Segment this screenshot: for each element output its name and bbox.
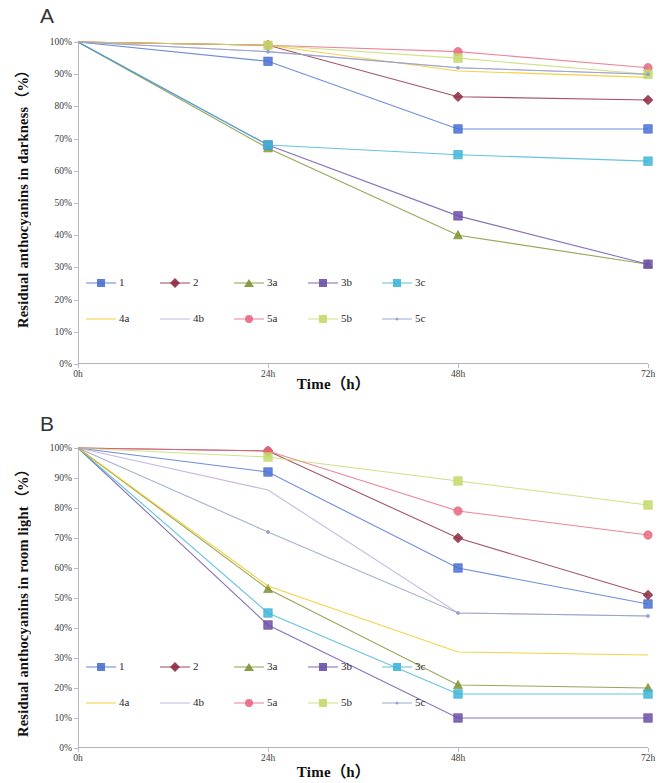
data-point — [646, 614, 649, 617]
panel-a-x-axis-title: Time（h） — [0, 372, 667, 393]
legend-swatch-3b-icon — [308, 277, 338, 289]
x-tick — [268, 748, 269, 752]
panel-a: A Residual anthocyanins in darkness（%） 0… — [0, 0, 667, 400]
series-2 — [78, 40, 653, 104]
legend-item-4b[interactable]: 4b — [160, 697, 234, 709]
y-tick — [74, 74, 78, 75]
legend-item-4a[interactable]: 4a — [86, 313, 160, 325]
y-tick — [74, 508, 78, 509]
legend-item-2[interactable]: 2 — [160, 277, 234, 289]
y-tick — [74, 478, 78, 479]
y-tick — [74, 332, 78, 333]
legend-item-3a[interactable]: 3a — [234, 661, 308, 673]
data-point — [454, 231, 463, 239]
series-5a — [78, 447, 652, 539]
series-4b — [78, 448, 648, 616]
legend-item-4b[interactable]: 4b — [160, 313, 234, 325]
panel-a-letter: A — [40, 4, 54, 28]
data-point — [644, 531, 652, 539]
data-point — [454, 507, 462, 515]
data-point — [453, 533, 463, 543]
legend-swatch-4a-icon — [86, 697, 116, 709]
legend-swatch-5b-icon — [308, 697, 338, 709]
y-tick-label: 60% — [55, 166, 72, 176]
y-tick-label: 0% — [59, 743, 72, 753]
legend-item-3c[interactable]: 3c — [382, 277, 456, 289]
y-tick — [74, 658, 78, 659]
data-point — [643, 590, 653, 600]
y-tick — [74, 448, 78, 449]
series-3a — [78, 42, 652, 268]
y-tick-label: 50% — [55, 198, 72, 208]
panel-b-letter: B — [40, 412, 54, 436]
y-tick-label: 70% — [55, 533, 72, 543]
data-point — [644, 714, 652, 722]
y-tick-label: 70% — [55, 134, 72, 144]
y-tick-label: 10% — [55, 713, 72, 723]
legend-label-3b: 3b — [341, 661, 352, 672]
y-tick — [74, 718, 78, 719]
y-tick — [74, 688, 78, 689]
legend-label-2: 2 — [193, 661, 199, 672]
legend-item-2[interactable]: 2 — [160, 661, 234, 673]
y-tick-label: 20% — [55, 295, 72, 305]
legend-swatch-1-icon — [86, 277, 116, 289]
y-tick-label: 40% — [55, 623, 72, 633]
y-tick-label: 30% — [55, 653, 72, 663]
legend-item-5a[interactable]: 5a — [234, 313, 308, 325]
legend-row: 4a4b5a5b5c — [86, 310, 456, 327]
legend-item-1[interactable]: 1 — [86, 277, 160, 289]
data-point — [264, 57, 272, 65]
y-tick-label: 90% — [55, 473, 72, 483]
series-3a — [78, 448, 652, 692]
panel-b-x-axis-title: Time（h） — [0, 760, 667, 781]
legend-swatch-5a-icon — [234, 313, 264, 325]
y-tick-label: 30% — [55, 262, 72, 272]
data-point — [266, 530, 269, 533]
legend-swatch-4b-icon — [160, 697, 190, 709]
data-point — [644, 125, 652, 133]
y-tick — [74, 568, 78, 569]
data-point — [266, 50, 269, 53]
data-point — [453, 92, 463, 102]
y-tick — [74, 235, 78, 236]
legend-row: 123a3b3c — [86, 274, 456, 291]
legend-item-5c[interactable]: 5c — [382, 697, 456, 709]
panel-a-y-axis-title: Residual anthocyanins in darkness（%） — [12, 30, 33, 360]
legend-item-5a[interactable]: 5a — [234, 697, 308, 709]
y-tick-label: 50% — [55, 593, 72, 603]
legend-item-4a[interactable]: 4a — [86, 697, 160, 709]
data-point — [644, 157, 652, 165]
legend-item-3c[interactable]: 3c — [382, 661, 456, 673]
legend-item-5b[interactable]: 5b — [308, 697, 382, 709]
data-point — [264, 621, 272, 629]
y-tick-label: 80% — [55, 503, 72, 513]
data-point — [456, 66, 459, 69]
data-point — [454, 714, 462, 722]
y-tick-label: 90% — [55, 69, 72, 79]
legend-label-2: 2 — [193, 277, 199, 288]
y-tick — [74, 598, 78, 599]
legend-swatch-3c-icon — [382, 277, 412, 289]
legend-label-5c: 5c — [415, 313, 425, 324]
legend-item-1[interactable]: 1 — [86, 661, 160, 673]
legend-item-3a[interactable]: 3a — [234, 277, 308, 289]
legend-swatch-5b-icon — [308, 313, 338, 325]
legend-item-5c[interactable]: 5c — [382, 313, 456, 325]
y-tick — [74, 106, 78, 107]
x-tick — [268, 364, 269, 368]
legend-swatch-1-icon — [86, 661, 116, 673]
legend-swatch-2-icon — [160, 277, 190, 289]
panel-a-legend: 123a3b3c4a4b5a5b5c — [86, 274, 456, 327]
legend-label-5a: 5a — [267, 313, 277, 324]
legend-label-5c: 5c — [415, 697, 425, 708]
data-point — [264, 609, 272, 617]
legend-label-1: 1 — [119, 277, 125, 288]
legend-item-3b[interactable]: 3b — [308, 661, 382, 673]
legend-swatch-5c-icon — [382, 313, 412, 325]
legend-swatch-5a-icon — [234, 697, 264, 709]
legend-label-4a: 4a — [119, 697, 129, 708]
legend-item-3b[interactable]: 3b — [308, 277, 382, 289]
legend-item-5b[interactable]: 5b — [308, 313, 382, 325]
y-tick-label: 40% — [55, 230, 72, 240]
